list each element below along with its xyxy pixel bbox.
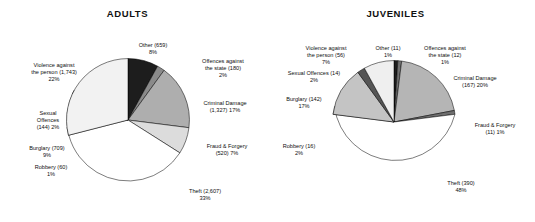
- adults-label-theft-line1: Theft (2,607): [176, 188, 234, 195]
- adults-label-burglary: Burglary (709) 9%: [18, 145, 76, 159]
- juveniles-label-theft: Theft (390) 48%: [434, 180, 488, 194]
- adults-label-robbery-line2: 1%: [22, 171, 80, 178]
- juveniles-label-state-line2: the state (12): [408, 52, 482, 59]
- juveniles-label-violence-line2: the person (56): [286, 52, 366, 59]
- adults-label-robbery-line1: Robbery (60): [22, 164, 80, 171]
- juveniles-label-fraud-forgery: Fraud & Forgery (11) 1%: [458, 122, 532, 136]
- juveniles-label-violence-line3: 7%: [286, 59, 366, 66]
- adults-label-state-line1: Offences against: [185, 58, 261, 65]
- juveniles-label-fraud-line1: Fraud & Forgery: [458, 122, 532, 129]
- adults-label-violence: Violence against the person (1,743) 22%: [14, 62, 94, 84]
- juveniles-label-other: Other (11) 1%: [367, 45, 409, 59]
- adults-chart-title: ADULTS: [0, 8, 261, 19]
- juveniles-label-sexual-line2: 2%: [270, 77, 358, 84]
- adults-label-violence-line3: 22%: [14, 76, 94, 83]
- adults-label-sexual-line2: Offences: [26, 117, 70, 124]
- adults-label-other: Other (659) 8%: [127, 42, 179, 56]
- adults-label-other-pct: 8%: [127, 49, 179, 56]
- juveniles-label-theft-line1: Theft (390): [434, 180, 488, 187]
- adults-label-theft: Theft (2,607) 33%: [176, 188, 234, 202]
- juveniles-label-robbery-line1: Robbery (16): [268, 143, 330, 150]
- adults-label-criminal-line1: Criminal Damage: [189, 100, 261, 107]
- juveniles-label-burglary: Burglary (142) 17%: [270, 96, 338, 110]
- adults-label-fraud-line2: (520) 7%: [193, 150, 261, 157]
- adults-label-other-name: Other (659): [127, 42, 179, 49]
- adults-label-burglary-line1: Burglary (709): [18, 145, 76, 152]
- juveniles-label-offences-state: Offences against the state (12) 1%: [408, 45, 482, 67]
- juveniles-label-burglary-line2: 17%: [270, 103, 338, 110]
- juveniles-label-theft-line2: 48%: [434, 187, 488, 194]
- juveniles-label-robbery-line2: 2%: [268, 150, 330, 157]
- adults-label-sexual-line3: (144) 2%: [26, 124, 70, 131]
- adults-label-state-line2: the state (180): [185, 65, 261, 72]
- juveniles-label-state-line1: Offences against: [408, 45, 482, 52]
- adults-label-fraud-forgery: Fraud & Forgery (520) 7%: [193, 143, 261, 157]
- juveniles-label-criminal-line1: Criminal Damage: [437, 75, 513, 82]
- adults-label-theft-line2: 33%: [176, 195, 234, 202]
- adults-label-burglary-line2: 9%: [18, 152, 76, 159]
- adults-label-violence-line1: Violence against: [14, 62, 94, 69]
- adults-label-criminal-damage: Criminal Damage (1,327) 17%: [189, 100, 261, 114]
- adults-label-robbery: Robbery (60) 1%: [22, 164, 80, 178]
- juveniles-label-sexual-offences: Sexual Offences (14) 2%: [270, 70, 358, 84]
- juveniles-label-robbery: Robbery (16) 2%: [268, 143, 330, 157]
- juveniles-label-fraud-line2: (11) 1%: [458, 129, 532, 136]
- juveniles-label-violence-line1: Violence against: [286, 45, 366, 52]
- juveniles-label-criminal-line2: (167) 20%: [437, 82, 513, 89]
- adults-label-state-pct: 2%: [185, 72, 261, 79]
- adults-chart-panel: ADULTS: [0, 0, 267, 222]
- adults-label-violence-line2: the person (1,743): [14, 69, 94, 76]
- juveniles-chart-title: JUVENILES: [262, 8, 529, 19]
- adults-label-fraud-line1: Fraud & Forgery: [193, 143, 261, 150]
- juveniles-label-burglary-line1: Burglary (142): [270, 96, 338, 103]
- juveniles-label-criminal-damage: Criminal Damage (167) 20%: [437, 75, 513, 89]
- adults-label-sexual-offences: Sexual Offences (144) 2%: [26, 110, 70, 132]
- juveniles-label-violence: Violence against the person (56) 7%: [286, 45, 366, 67]
- adults-label-sexual-line1: Sexual: [26, 110, 70, 117]
- adults-label-offences-state: Offences against the state (180) 2%: [185, 58, 261, 80]
- juveniles-chart-panel: JUVENILES: [268, 0, 535, 222]
- juveniles-label-state-pct: 1%: [408, 59, 482, 66]
- juveniles-label-other-line1: Other (11): [367, 45, 409, 52]
- adults-label-criminal-line2: (1,327) 17%: [189, 107, 261, 114]
- juveniles-label-other-pct: 1%: [367, 52, 409, 59]
- juveniles-label-sexual-line1: Sexual Offences (14): [270, 70, 358, 77]
